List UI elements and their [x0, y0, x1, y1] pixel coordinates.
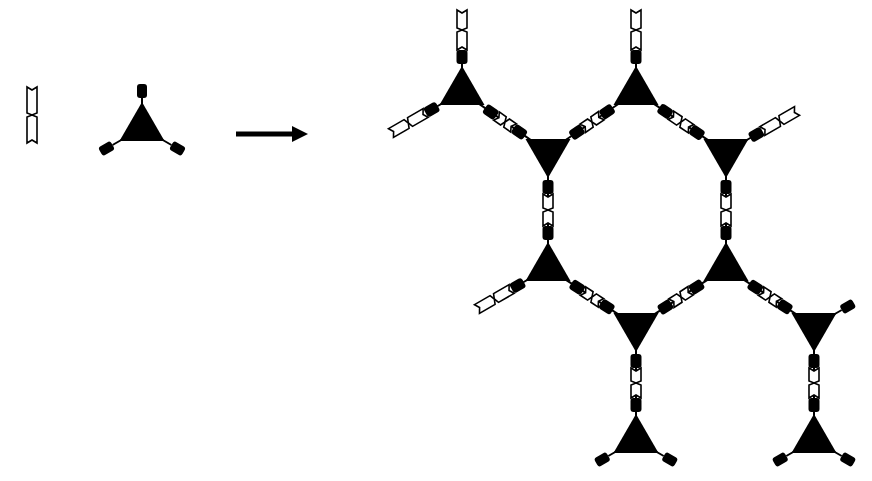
node-icon [98, 84, 186, 156]
assembly-diagram [0, 0, 872, 481]
bond-link [809, 342, 820, 425]
node-triangle-icon [525, 242, 570, 281]
linker-icon [27, 87, 37, 143]
node-triangle-icon [791, 313, 836, 352]
node-triangle-icon [703, 242, 748, 281]
node-triangle-icon [525, 139, 570, 178]
hexagonal-network [388, 10, 856, 467]
node-triangle-icon [613, 414, 658, 453]
reaction-arrow-icon [236, 126, 308, 142]
node-triangle-icon [703, 139, 748, 178]
node-triangle-icon [439, 66, 484, 105]
bond-link [721, 168, 732, 253]
bond-link [543, 168, 554, 253]
node-triangle-icon [791, 414, 836, 453]
node-triangle-icon [613, 313, 658, 352]
bond-link [631, 342, 642, 425]
legend-group [27, 84, 186, 156]
node-triangle-icon [613, 66, 658, 105]
